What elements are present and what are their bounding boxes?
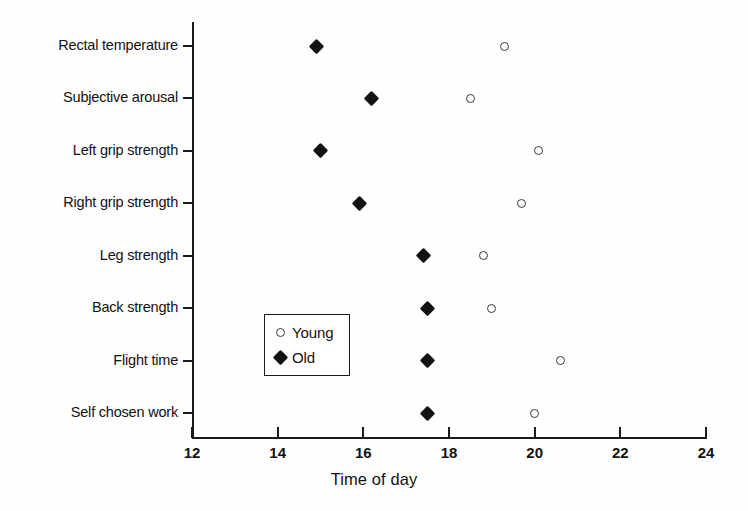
y-tick [183, 307, 194, 309]
data-point-old [364, 91, 380, 107]
y-axis-label: Right grip strength [0, 194, 178, 212]
y-axis-label-text: Leg strength [6, 247, 178, 263]
data-point-young [517, 199, 526, 208]
data-point-old [420, 300, 436, 316]
y-axis-label: Self chosen work [0, 404, 178, 422]
data-point-young [530, 409, 539, 418]
open-circle-icon [273, 325, 287, 339]
x-tick [362, 427, 364, 438]
y-tick [183, 45, 194, 47]
y-axis-label-text: Back strength [6, 299, 178, 315]
x-tick-label: 20 [515, 444, 555, 461]
y-axis-label-text: Right grip strength [6, 194, 178, 210]
y-axis-label: Back strength [0, 299, 178, 317]
data-point-old [313, 143, 329, 159]
filled-diamond-icon [273, 350, 287, 364]
data-point-old [308, 38, 324, 54]
y-axis-label: Left grip strength [0, 142, 178, 160]
x-tick [619, 427, 621, 438]
y-axis-label: Subjective arousal [0, 89, 178, 107]
x-tick [191, 427, 193, 438]
y-tick [183, 360, 194, 362]
legend-label-old: Old [292, 349, 315, 366]
data-point-young [556, 356, 565, 365]
x-tick [448, 427, 450, 438]
legend-entry-old: Old [273, 347, 315, 367]
x-tick-label: 14 [258, 444, 298, 461]
y-tick [183, 412, 194, 414]
chart-legend: Young Old [264, 314, 350, 376]
y-tick [183, 202, 194, 204]
y-axis-label-text: Rectal temperature [6, 37, 178, 53]
y-axis-label-text: Subjective arousal [6, 89, 178, 105]
x-axis-title: Time of day [0, 470, 748, 489]
data-point-old [420, 353, 436, 369]
x-tick-label: 22 [600, 444, 640, 461]
data-point-young [534, 146, 543, 155]
y-axis-label: Flight time [0, 352, 178, 370]
data-point-young [487, 304, 496, 313]
y-axis-label-text: Flight time [6, 352, 178, 368]
x-tick [534, 427, 536, 438]
data-point-young [500, 42, 509, 51]
y-axis-label: Rectal temperature [0, 37, 178, 55]
data-point-old [351, 196, 367, 212]
data-point-young [466, 94, 475, 103]
x-tick [705, 427, 707, 438]
legend-entry-young: Young [273, 322, 334, 342]
y-tick [183, 97, 194, 99]
y-axis-label-text: Left grip strength [6, 142, 178, 158]
x-tick [277, 427, 279, 438]
data-point-old [416, 248, 432, 264]
x-tick-label: 16 [343, 444, 383, 461]
y-axis-label: Leg strength [0, 247, 178, 265]
x-tick-label: 24 [686, 444, 726, 461]
x-tick-label: 18 [429, 444, 469, 461]
y-axis-label-text: Self chosen work [6, 404, 178, 420]
y-tick [183, 255, 194, 257]
y-axis-line [192, 22, 194, 439]
legend-label-young: Young [292, 324, 334, 341]
x-tick-label: 12 [172, 444, 212, 461]
scatter-chart-figure: Rectal temperatureSubjective arousalLeft… [0, 0, 748, 511]
data-point-young [479, 251, 488, 260]
y-tick [183, 150, 194, 152]
data-point-old [420, 405, 436, 421]
